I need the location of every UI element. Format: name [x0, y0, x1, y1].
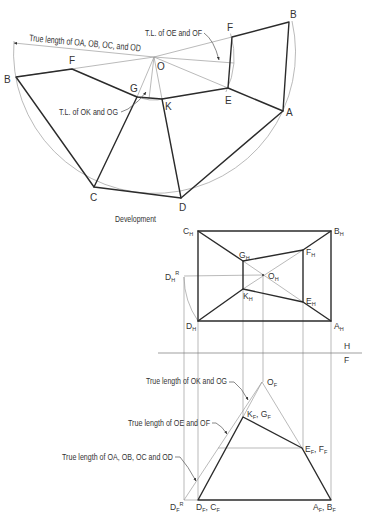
label-g-h: GH — [239, 250, 250, 261]
label-subscript: F — [216, 507, 220, 513]
annotation-true-length-ok-og: True length of OK and OG — [146, 376, 227, 386]
fold-k-d — [162, 99, 181, 198]
label-e-f-f-f: EF, FF — [305, 444, 328, 455]
label-superscript: R — [180, 501, 184, 507]
edge-c-g — [198, 231, 243, 261]
label-b-left: B — [4, 74, 11, 85]
label-subscript: H — [311, 252, 315, 258]
development-view: True length of OA, OB, OC, and OD T.L. o… — [4, 9, 297, 224]
front-view: True length of OK and OG True length of … — [62, 376, 336, 513]
leader-true-length-ok-og — [229, 382, 248, 400]
label-b-right: B — [290, 9, 297, 20]
label-o-h: OH — [268, 271, 279, 282]
drawing-canvas: True length of OA, OB, OC, and OD T.L. o… — [0, 0, 372, 527]
fold-line-h-f: H F — [158, 341, 362, 365]
revolution-arc-d — [184, 277, 198, 321]
label-a-f-b-f: AF, BF — [313, 502, 336, 513]
label-a-h: AH — [334, 321, 344, 332]
label-subscript: H — [340, 231, 344, 237]
label-o-f: OF — [267, 377, 278, 388]
label-subscript: F — [324, 449, 328, 455]
development-title: Development — [115, 213, 156, 224]
development-outline — [16, 22, 289, 198]
label-k: K — [165, 101, 172, 112]
label-subscript: F — [274, 382, 278, 388]
label-subscript: F — [332, 507, 336, 513]
label-subscript: H — [275, 276, 279, 282]
label-b-h: BH — [334, 226, 344, 237]
label-a: A — [286, 107, 293, 118]
line-o-f-right — [154, 37, 232, 57]
label-subscript: F — [267, 414, 271, 420]
label-subscript: F — [176, 507, 180, 513]
annotation-true-length-oa-ob-oc-od: True length of OA, OB, OC and OD — [62, 452, 173, 462]
label-d: D — [179, 202, 186, 213]
label-d-f-c-f: DF, CF — [196, 502, 220, 513]
leader-tl-oe-of — [204, 33, 219, 60]
annotation-tl-oe-of: T.L. of OE and OF — [145, 27, 202, 38]
label-subscript: H — [171, 277, 175, 283]
label-subscript: H — [340, 326, 344, 332]
label-d-h: DH — [186, 321, 196, 332]
revolved-line-o-d — [184, 275, 263, 276]
label-k-h: KH — [243, 291, 253, 302]
label-subscript: H — [189, 231, 193, 237]
fold-e-a — [228, 88, 283, 111]
label-g: G — [130, 83, 138, 94]
label-f-right: F — [227, 22, 233, 33]
true-length-line-o-d-r — [184, 382, 262, 500]
label-base: G — [261, 409, 268, 419]
point-o-h — [262, 274, 264, 276]
leader-true-length-oa-ob-oc-od — [175, 457, 196, 481]
fold-label-f: F — [344, 355, 349, 365]
edge-d-k — [198, 289, 243, 321]
label-c: C — [90, 192, 97, 203]
leader-true-length-oe-of — [212, 423, 227, 434]
label-subscript: H — [249, 296, 253, 302]
label-f-left: F — [69, 55, 75, 66]
label-o: O — [157, 61, 165, 72]
label-e: E — [225, 95, 232, 106]
frustum-outline — [198, 417, 331, 500]
label-subscript: H — [246, 255, 250, 261]
label-k-f-g-f: KF, GF — [247, 409, 271, 420]
label-e-h: EH — [306, 296, 316, 307]
label-c-h: CH — [183, 226, 193, 237]
label-d-f-r: DFR — [170, 501, 184, 513]
pyramid-development-figure: True length of OA, OB, OC, and OD T.L. o… — [0, 0, 372, 527]
label-f-h: FH — [306, 247, 315, 258]
label-subscript: H — [192, 326, 196, 332]
annotation-tl-ok-og: T.L. of OK and OG — [59, 106, 118, 117]
label-d-h-r: DHR — [165, 270, 179, 283]
fold-label-h: H — [344, 341, 350, 351]
label-superscript: R — [175, 270, 179, 276]
annotation-true-length-oe-of: True length of OE and OF — [128, 418, 210, 428]
label-subscript: H — [312, 301, 316, 307]
label-base: G — [239, 250, 246, 260]
top-view: CH BH DHR DH AH GH FH OH KH EH — [165, 226, 344, 500]
